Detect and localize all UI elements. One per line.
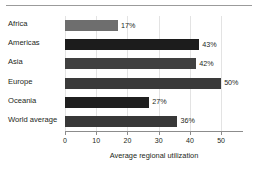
x-tick-40 [190,131,191,135]
category-label-world-average: World average [8,113,63,126]
bar-africa[interactable] [65,20,118,31]
bar-row: Europe50% [65,74,243,93]
x-tick-label-0: 0 [63,136,67,146]
category-label-africa: Africa [8,17,63,30]
bar-europe[interactable] [65,78,221,89]
x-axis-line [65,131,243,132]
bar-value-africa: 17% [121,20,135,32]
category-label-asia: Asia [8,55,63,68]
category-label-oceania: Oceania [8,94,63,107]
bar-oceania[interactable] [65,97,149,108]
bar-value-world-average: 36% [180,115,194,127]
category-label-europe: Europe [8,75,63,88]
x-tick-label-50: 50 [217,136,225,146]
bar-asia[interactable] [65,58,196,69]
bar-row: Americas43% [65,35,243,54]
bar-row: Oceania27% [65,93,243,112]
bar-row: World average36% [65,112,243,131]
bar-value-europe: 50% [224,77,238,89]
x-tick-10 [96,131,97,135]
plot-area: Africa17%Americas43%Asia42%Europe50%Ocea… [65,16,243,131]
bar-value-asia: 42% [199,58,213,70]
bar-americas[interactable] [65,39,199,50]
x-axis-title: Average regional utilization [65,150,243,161]
bar-chart: Africa17%Americas43%Asia42%Europe50%Ocea… [0,0,258,180]
bar-row: Asia42% [65,54,243,73]
x-tick-20 [127,131,128,135]
bar-value-americas: 43% [202,39,216,51]
bar-world-average[interactable] [65,116,177,127]
x-tick-label-10: 10 [92,136,100,146]
x-tick-label-40: 40 [186,136,194,146]
x-tick-label-20: 20 [124,136,132,146]
x-tick-label-30: 30 [155,136,163,146]
x-tick-0 [65,131,66,135]
x-tick-30 [159,131,160,135]
category-label-americas: Americas [8,36,63,49]
x-tick-50 [221,131,222,135]
bar-row: Africa17% [65,16,243,35]
bar-value-oceania: 27% [152,96,166,108]
